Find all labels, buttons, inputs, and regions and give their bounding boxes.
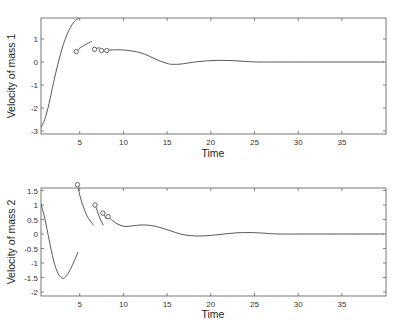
x-tick-label: 35 xyxy=(337,138,346,147)
x-tick-label: 5 xyxy=(77,300,82,309)
y-tick-label: 1 xyxy=(34,201,39,210)
y-tick-label: -1 xyxy=(31,259,39,268)
velocity-curve-segment xyxy=(107,50,384,65)
axis-ticks: 510152025303510-1-2-3 xyxy=(31,18,386,147)
x-tick-label: 15 xyxy=(163,300,172,309)
chart-velocity-mass-1: 510152025303510-1-2-3 Time Velocity of m… xyxy=(5,18,386,159)
x-tick-label: 15 xyxy=(163,138,172,147)
x-tick-label: 5 xyxy=(77,138,82,147)
x-tick-label: 25 xyxy=(250,300,259,309)
figure: 510152025303510-1-2-3 Time Velocity of m… xyxy=(0,0,399,330)
x-tick-label: 20 xyxy=(206,138,215,147)
y-tick-label: -1 xyxy=(31,81,39,90)
x-tick-label: 30 xyxy=(294,300,303,309)
x-axis-label: Time xyxy=(202,147,225,159)
velocity-curve-segment xyxy=(108,217,384,236)
velocity-curve-segment xyxy=(41,18,79,127)
data-curves xyxy=(41,18,384,127)
x-axis-label: Time xyxy=(202,308,225,320)
y-tick-label: -2 xyxy=(31,288,39,297)
x-tick-label: 10 xyxy=(119,138,128,147)
circle-marker-icon xyxy=(92,47,96,51)
circle-marker-icon xyxy=(106,214,110,218)
x-tick-label: 30 xyxy=(294,138,303,147)
chart-velocity-mass-2: 51015202530351.510.50-0.5-1-1.5-2 Time V… xyxy=(5,183,386,321)
y-tick-label: -3 xyxy=(31,127,39,136)
y-tick-label: 0 xyxy=(34,230,39,239)
y-tick-label: -1.5 xyxy=(24,274,38,283)
axis-ticks: 51015202530351.510.50-0.5-1-1.5-2 xyxy=(24,187,386,310)
data-curves xyxy=(41,185,384,279)
y-tick-label: -0.5 xyxy=(24,245,38,254)
x-tick-label: 25 xyxy=(250,138,259,147)
y-axis-label: Velocity of mass 2 xyxy=(5,200,17,285)
circle-marker-icon xyxy=(105,48,109,52)
x-tick-label: 35 xyxy=(337,300,346,309)
y-tick-label: 1 xyxy=(34,35,39,44)
circle-marker-icon xyxy=(101,211,105,215)
plot-area xyxy=(41,18,386,134)
y-axis-label: Velocity of mass 1 xyxy=(5,34,17,119)
y-tick-label: -2 xyxy=(31,104,39,113)
circle-marker-icon xyxy=(93,203,97,207)
y-tick-label: 0 xyxy=(34,58,39,67)
velocity-curve-segment xyxy=(41,204,78,279)
circle-marker-icon xyxy=(74,49,78,53)
y-tick-label: 1.5 xyxy=(27,187,39,196)
velocity-curve-segment xyxy=(76,41,92,51)
circle-marker-icon xyxy=(75,183,79,187)
circle-marker-icon xyxy=(99,48,103,52)
x-tick-label: 10 xyxy=(119,300,128,309)
y-tick-label: 0.5 xyxy=(27,216,39,225)
